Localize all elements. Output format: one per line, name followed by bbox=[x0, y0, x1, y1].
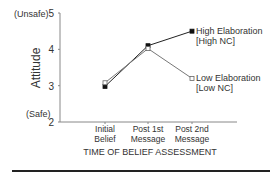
series-label: Low Elaboration bbox=[196, 73, 261, 83]
line-chart: 2345 InitialBeliefPost 1stMessagePost 2n… bbox=[0, 0, 275, 173]
x-tick-label: Initial bbox=[95, 124, 115, 134]
y-annotation-bottom: (Safe) bbox=[26, 109, 51, 119]
x-axis-label: TIME OF BELIEF ASSESSMENT bbox=[83, 147, 217, 157]
x-tick-label: Post 2nd bbox=[175, 124, 209, 134]
filled-square-marker bbox=[190, 29, 194, 33]
series-label-sub: [Low NC] bbox=[196, 83, 233, 93]
x-ticks: InitialBeliefPost 1stMessagePost 2ndMess… bbox=[94, 122, 209, 144]
open-square-marker bbox=[146, 47, 150, 51]
y-tick-label: 4 bbox=[48, 44, 54, 55]
series-line bbox=[105, 31, 192, 86]
open-square-marker bbox=[103, 81, 107, 85]
open-square-marker bbox=[190, 76, 194, 80]
y-tick-label: 5 bbox=[48, 8, 54, 19]
x-tick-label: Message bbox=[131, 134, 166, 144]
series-label: High Elaboration bbox=[196, 26, 263, 36]
x-tick-label: Post 1st bbox=[133, 124, 164, 134]
series-lines: High Elaboration[High NC]Low Elaboration… bbox=[103, 26, 263, 93]
series-label-sub: [High NC] bbox=[196, 36, 235, 46]
y-tick-label: 3 bbox=[48, 81, 54, 92]
x-tick-label: Belief bbox=[94, 134, 116, 144]
series-line bbox=[105, 49, 192, 83]
y-axis-label: Attitude bbox=[29, 47, 43, 88]
y-annotation-top: (Unsafe) bbox=[14, 9, 49, 19]
x-tick-label: Message bbox=[175, 134, 210, 144]
